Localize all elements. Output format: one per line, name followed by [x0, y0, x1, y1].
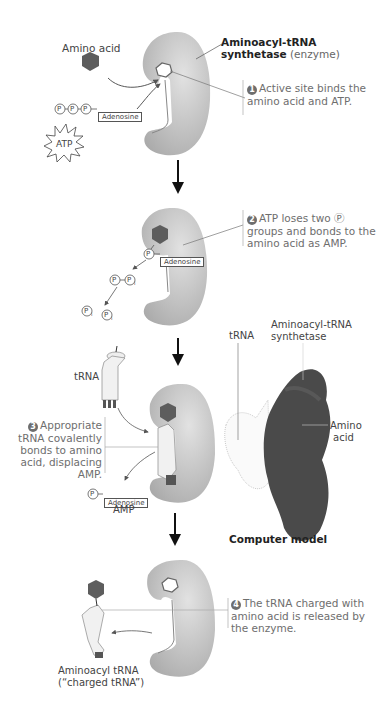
aminoacyl-trna-label: Aminoacyl tRNA	[58, 665, 139, 677]
model-synthetase-label-2: synthetase	[271, 331, 326, 343]
model-amino-label-2: acid	[333, 432, 354, 444]
enzyme-step1	[143, 32, 210, 155]
phosphate-step2: P	[146, 250, 150, 258]
amino-acid-icon	[82, 52, 99, 71]
enzyme-title-light: (enzyme)	[290, 48, 340, 60]
charged-trna-icon	[82, 599, 104, 658]
step-4-text: 4The tRNA charged with amino acid is rel…	[231, 597, 381, 634]
model-synthetase-label-1: Aminoacyl-tRNA	[271, 319, 352, 331]
amino-acid-icon-step4	[88, 580, 104, 599]
phosphate-step3: P	[90, 490, 94, 498]
charged-trna-label: (“charged tRNA”)	[58, 677, 144, 689]
trna-icon-step3	[102, 346, 125, 408]
enzyme-step3	[150, 384, 215, 503]
amino-acid-label: Amino acid	[62, 42, 121, 54]
adenosine-box-step1: Adenosine	[98, 104, 142, 123]
step-1-text: 1Active site binds the amino acid and AT…	[247, 82, 377, 107]
model-amino-label-1: Amino	[330, 420, 362, 432]
trna-label: tRNA	[74, 371, 99, 383]
amp-label: AMP	[113, 504, 135, 516]
enzyme-step4	[147, 560, 215, 677]
computer-model-image	[225, 369, 331, 541]
enzyme-title: Aminoacyl-tRNA synthetase (enzyme)	[221, 36, 361, 60]
step-3-text: 3Appropriate tRNA covalently bonds to am…	[6, 419, 102, 480]
model-trna-label: tRNA	[229, 330, 254, 342]
computer-model-caption: Computer model	[229, 533, 327, 545]
atp-label: ATP	[56, 138, 72, 150]
step-2-text: 2ATP loses two Ⓟ groups and bonds to the…	[247, 212, 382, 249]
adenosine-box-step2: Adenosine	[160, 249, 204, 268]
